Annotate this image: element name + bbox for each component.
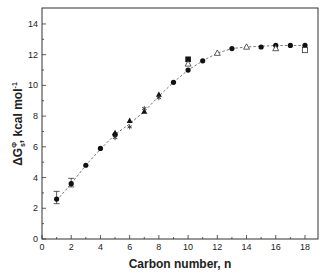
x-tick-label: 6 (127, 242, 132, 252)
y-tick-label: 2 (33, 203, 38, 213)
x-tick-label: 2 (69, 242, 74, 252)
data-point-filled-circle (288, 43, 293, 48)
y-tick-label: 14 (28, 19, 38, 29)
data-point-filled-circle (171, 80, 176, 85)
data-point-filled-circle (98, 146, 103, 151)
data-point-filled-circle (259, 44, 264, 49)
data-point-filled-circle (83, 163, 88, 168)
y-tick-label: 0 (33, 234, 38, 244)
y-tick-label: 10 (28, 80, 38, 90)
y-tick-label: 6 (33, 142, 38, 152)
data-point-filled-circle (186, 67, 191, 72)
y-axis: 02468101214 (28, 19, 46, 244)
x-tick-label: 14 (242, 242, 252, 252)
x-tick-label: 0 (39, 242, 44, 252)
data-point-filled-circle (229, 46, 234, 51)
y-tick-label: 12 (28, 50, 38, 60)
data-point-filled-circle (69, 181, 74, 186)
x-tick-label: 12 (212, 242, 222, 252)
data-point-filled-circle (54, 196, 59, 201)
x-tick-label: 10 (183, 242, 193, 252)
plot-frame (42, 8, 318, 239)
x-axis: 024681012141618 (39, 235, 309, 252)
x-tick-label: 18 (300, 242, 310, 252)
y-tick-label: 8 (33, 111, 38, 121)
fit-line (57, 45, 305, 200)
data-point-open-square (302, 47, 307, 52)
data-point-filled-circle (200, 58, 205, 63)
chart: 02468101214 024681012141618 Carbon numbe… (0, 0, 324, 276)
x-tick-label: 8 (156, 242, 161, 252)
y-axis-title: ΔGΦs, kcal mol-1 (11, 82, 26, 166)
data-point-open-triangle (244, 44, 250, 49)
x-tick-label: 16 (271, 242, 281, 252)
x-axis-title: Carbon number, n (129, 257, 232, 271)
y-tick-label: 4 (33, 173, 38, 183)
x-tick-label: 4 (98, 242, 103, 252)
data-points (54, 43, 308, 204)
data-point-filled-triangle (127, 118, 133, 123)
